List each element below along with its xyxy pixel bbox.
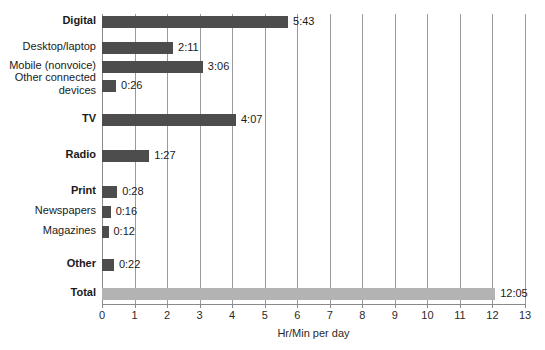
tick-mark-4 [232, 304, 233, 308]
bar-magazines[interactable] [102, 226, 109, 238]
category-label-magazines: Magazines [0, 224, 96, 237]
tick-label-0: 0 [87, 309, 117, 322]
tick-mark-6 [297, 304, 298, 308]
bar-radio[interactable] [102, 150, 149, 162]
bar-tv[interactable] [102, 114, 236, 126]
tick-label-7: 7 [315, 309, 345, 322]
bar-digital[interactable] [102, 16, 288, 28]
bar-mobile-nonvoice[interactable] [102, 61, 203, 73]
value-label-digital: 5:43 [293, 15, 314, 28]
tick-mark-13 [525, 304, 526, 308]
tick-mark-7 [330, 304, 331, 308]
tick-mark-11 [460, 304, 461, 308]
category-label-total: Total [0, 286, 96, 299]
bar-total[interactable] [102, 288, 495, 300]
category-label-tv: TV [0, 112, 96, 125]
category-label-other: Other [0, 257, 96, 270]
value-label-print: 0:28 [122, 185, 143, 198]
tick-label-3: 3 [185, 309, 215, 322]
bar-newspapers[interactable] [102, 206, 111, 218]
tick-mark-2 [167, 304, 168, 308]
bar-desktop-laptop[interactable] [102, 42, 173, 54]
value-label-other-connected-devices: 0:26 [121, 79, 142, 92]
tick-mark-3 [200, 304, 201, 308]
bar-other-connected-devices[interactable] [102, 80, 116, 92]
value-label-mobile-nonvoice: 3:06 [208, 60, 229, 73]
value-label-magazines: 0:12 [114, 225, 135, 238]
bar-other[interactable] [102, 259, 114, 271]
tick-mark-9 [395, 304, 396, 308]
tick-label-10: 10 [412, 309, 442, 322]
tick-label-1: 1 [120, 309, 150, 322]
bar-row: Magazines0:12 [0, 226, 545, 238]
bar-row: Desktop/laptop2:11 [0, 42, 545, 54]
value-label-other: 0:22 [119, 258, 140, 271]
x-axis-title: Hr/Min per day [102, 327, 525, 339]
category-label-digital: Digital [0, 14, 96, 27]
media-time-spent-bar-chart: Digital5:43Desktop/laptop2:11Mobile (non… [0, 0, 545, 350]
bar-print[interactable] [102, 186, 117, 198]
bar-row: Digital5:43 [0, 16, 545, 28]
tick-label-4: 4 [217, 309, 247, 322]
category-label-desktop-laptop: Desktop/laptop [0, 40, 96, 53]
category-label-radio: Radio [0, 148, 96, 161]
bar-row: Print0:28 [0, 186, 545, 198]
category-label-print: Print [0, 184, 96, 197]
tick-mark-12 [492, 304, 493, 308]
tick-label-11: 11 [445, 309, 475, 322]
bar-row: Total12:05 [0, 288, 545, 300]
value-label-newspapers: 0:16 [116, 205, 137, 218]
tick-label-2: 2 [152, 309, 182, 322]
bar-row: Other0:22 [0, 259, 545, 271]
bar-row: Radio1:27 [0, 150, 545, 162]
category-label-newspapers: Newspapers [0, 204, 96, 217]
tick-mark-5 [265, 304, 266, 308]
bar-row: TV4:07 [0, 114, 545, 126]
tick-label-5: 5 [250, 309, 280, 322]
value-label-tv: 4:07 [241, 113, 262, 126]
x-axis-line [102, 304, 525, 305]
tick-mark-10 [427, 304, 428, 308]
value-label-desktop-laptop: 2:11 [178, 41, 199, 54]
tick-label-9: 9 [380, 309, 410, 322]
tick-mark-8 [362, 304, 363, 308]
tick-mark-1 [135, 304, 136, 308]
tick-label-12: 12 [477, 309, 507, 322]
tick-label-13: 13 [510, 309, 540, 322]
value-label-radio: 1:27 [154, 149, 175, 162]
tick-label-6: 6 [282, 309, 312, 322]
category-label-other-connected-devices: Other connecteddevices [0, 71, 96, 97]
bar-row: Other connecteddevices0:26 [0, 80, 545, 92]
tick-mark-0 [102, 304, 103, 308]
tick-label-8: 8 [347, 309, 377, 322]
bar-row: Newspapers0:16 [0, 206, 545, 218]
value-label-total: 12:05 [500, 287, 528, 300]
